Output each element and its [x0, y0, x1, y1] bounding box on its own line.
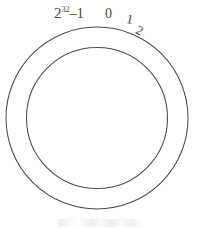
label-max-base: 2 [54, 5, 62, 21]
caption-smudge [56, 219, 144, 227]
ring-diagram [0, 0, 197, 228]
label-max-suffix: –1 [70, 5, 84, 21]
identifier-ring-figure: 232–1 0 1 2 [0, 0, 197, 228]
label-zero: 0 [105, 7, 112, 21]
inner-ring-circle [27, 48, 168, 189]
label-max-identifier: 232–1 [54, 5, 84, 21]
label-max-exponent: 32 [62, 4, 70, 14]
outer-ring-circle [6, 27, 188, 209]
